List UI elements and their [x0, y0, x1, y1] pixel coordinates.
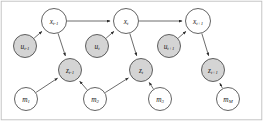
edge-m_2-to-z_t [105, 78, 128, 93]
node-x_t[interactable]: xt [114, 9, 139, 34]
edge-u_t-to-x_t [106, 31, 114, 38]
graphical-model-figure: xt-1xtxt+1ut-1utut+1zt-1ztzt+1m1m2m3mM [0, 0, 263, 121]
node-circle-z_t [130, 59, 153, 82]
node-m_2[interactable]: m2 [84, 88, 107, 111]
edge-x_tp1-to-z_tp1 [202, 34, 209, 56]
node-z_tp1[interactable]: zt+1 [202, 59, 225, 82]
node-circle-m_3 [149, 88, 172, 111]
edge-m_1-to-z_tm1 [36, 78, 57, 92]
node-circle-u_tm1 [14, 35, 37, 58]
node-u_tm1[interactable]: ut-1 [14, 35, 37, 58]
node-circle-x_t [114, 9, 139, 34]
edge-m_M-to-z_tp1 [220, 83, 223, 88]
node-circle-z_tp1 [202, 59, 225, 82]
node-circle-z_tm1 [59, 59, 82, 82]
node-u_tp1[interactable]: ut+1 [158, 35, 181, 58]
node-z_t[interactable]: zt [130, 59, 153, 82]
nodes-layer: xt-1xtxt+1ut-1utut+1zt-1ztzt+1m1m2m3mM [14, 9, 240, 111]
graph-canvas: xt-1xtxt+1ut-1utut+1zt-1ztzt+1m1m2m3mM [0, 0, 263, 121]
edge-u_tp1-to-x_tp1 [178, 31, 186, 38]
node-circle-u_tp1 [158, 35, 181, 58]
edge-x_t-to-z_t [130, 34, 137, 56]
edge-x_tm1-to-z_tm1 [58, 33, 65, 55]
node-z_tm1[interactable]: zt-1 [59, 59, 82, 82]
node-m_3[interactable]: m3 [149, 88, 172, 111]
node-circle-m_M [217, 88, 240, 111]
node-circle-x_tp1 [186, 9, 211, 34]
edge-u_tm1-to-x_tm1 [34, 31, 42, 38]
edge-m_3-to-z_t [149, 82, 153, 88]
node-circle-m_1 [15, 88, 38, 111]
node-circle-x_tm1 [42, 9, 67, 34]
node-circle-m_2 [84, 88, 107, 111]
node-u_t[interactable]: ut [86, 35, 109, 58]
node-x_tp1[interactable]: xt+1 [186, 9, 211, 34]
node-circle-u_t [86, 35, 109, 58]
node-m_M[interactable]: mM [217, 88, 240, 111]
node-x_tm1[interactable]: xt-1 [42, 9, 67, 34]
edge-m_2-to-z_tm1 [80, 81, 87, 90]
node-m_1[interactable]: m1 [15, 88, 38, 111]
